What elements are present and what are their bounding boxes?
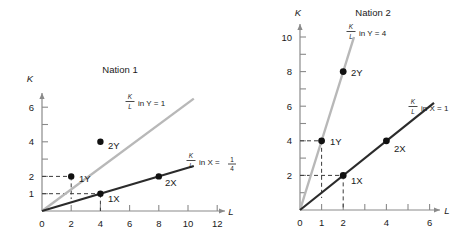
x-axis-tick-labels: 0 1 2 4 6 [297, 217, 432, 228]
two-panel-factor-intensity-figure: Nation 1 K L 0 2 [0, 0, 463, 237]
data-point-label-1x: 1X [108, 193, 120, 204]
y-tick-label: 1 [29, 188, 34, 199]
fraction-numerator-k: K [349, 23, 354, 30]
line-kl-in-x [42, 166, 194, 211]
y-axis-name: K [295, 7, 302, 18]
value-fraction-denominator: 4 [230, 165, 234, 172]
x-tick-label: 0 [39, 218, 44, 229]
y-tick-label: 4 [29, 136, 34, 147]
data-point-2x [383, 137, 390, 144]
y-tick-label: 2 [287, 170, 292, 181]
dashed-guide-lines [300, 141, 343, 210]
data-points [318, 68, 390, 179]
data-point-label-2x: 2X [394, 143, 406, 154]
x-tick-label: 6 [127, 218, 132, 229]
x-axis-tick-labels: 0 2 4 6 8 10 12 [39, 218, 222, 229]
data-point-1y [318, 137, 325, 144]
fraction-denominator-l: L [189, 162, 193, 169]
line-label-text: in X = [199, 158, 220, 167]
data-point-labels: 1Y 2Y 1X 2X [330, 67, 406, 186]
data-point-label-1x: 1X [351, 175, 363, 186]
x-tick-label: 2 [69, 218, 74, 229]
y-axis-tick-labels: 1 2 4 6 [29, 102, 34, 200]
line-label-text: in Y = 1 [138, 99, 166, 108]
panel-title: Nation 1 [102, 64, 137, 75]
chart-svg-nation-2: Nation 2 K L 0 1 [240, 0, 463, 237]
data-point-label-2y: 2Y [351, 67, 363, 78]
line-label-kl-in-x: K L in X = 1 [409, 98, 449, 115]
x-axis-name: L [228, 206, 233, 217]
x-tick-label: 2 [341, 217, 346, 228]
x-axis-name: L [444, 205, 449, 216]
line-label-kl-in-x: K L in X = 1 4 [187, 152, 237, 172]
y-axis-name: K [27, 73, 34, 84]
y-axis-ticks [42, 107, 48, 194]
chart-svg-nation-1: Nation 1 K L 0 2 [0, 0, 240, 237]
y-axis-tick-labels: 2 4 6 8 10 [281, 32, 292, 181]
x-tick-label: 6 [427, 217, 432, 228]
line-label-kl-in-y: K L in Y = 1 [126, 93, 166, 110]
data-point-1y [68, 173, 74, 179]
fraction-numerator-k: K [411, 98, 416, 105]
data-point-label-1y: 1Y [330, 136, 342, 147]
data-point-2x [156, 173, 162, 179]
x-tick-label: 4 [98, 218, 103, 229]
x-axis-ticks [71, 205, 217, 211]
y-tick-label: 10 [281, 32, 292, 43]
y-tick-label: 4 [287, 135, 292, 146]
line-label-text: in Y = 4 [359, 29, 387, 38]
fraction-denominator-l: L [349, 33, 353, 40]
line-kl-in-x [300, 103, 434, 210]
x-axis-ticks [322, 204, 430, 210]
axis-lines [297, 24, 440, 213]
line-kl-in-y [300, 37, 354, 210]
panel-title: Nation 2 [355, 7, 390, 18]
data-point-label-2y: 2Y [108, 140, 120, 151]
y-tick-label: 6 [29, 102, 34, 113]
x-tick-label: 0 [297, 217, 302, 228]
data-point-label-1y: 1Y [79, 173, 91, 184]
y-tick-label: 2 [29, 171, 34, 182]
y-tick-label: 8 [287, 66, 292, 77]
fraction-numerator-k: K [128, 93, 133, 100]
line-label-text: in X = 1 [421, 104, 449, 113]
fraction-numerator-k: K [189, 152, 194, 159]
data-point-1x [340, 172, 347, 179]
x-tick-label: 10 [183, 218, 194, 229]
chart-panel-nation-2: Nation 2 K L 0 1 [240, 0, 463, 237]
data-point-2y [97, 139, 103, 145]
axis-lines [39, 93, 225, 214]
line-label-kl-in-y: K L in Y = 4 [347, 23, 387, 40]
x-tick-label: 8 [156, 218, 161, 229]
data-point-label-2x: 2X [165, 177, 177, 188]
data-point-1x [97, 191, 103, 197]
fraction-denominator-l: L [128, 103, 132, 110]
y-axis-ticks [300, 37, 306, 193]
x-tick-label: 1 [319, 217, 324, 228]
chart-panel-nation-1: Nation 1 K L 0 2 [0, 0, 240, 237]
x-tick-label: 12 [212, 218, 223, 229]
fraction-denominator-l: L [411, 108, 415, 115]
x-tick-label: 4 [384, 217, 389, 228]
y-tick-label: 6 [287, 101, 292, 112]
value-fraction-numerator: 1 [230, 156, 234, 163]
data-point-2y [340, 68, 347, 75]
